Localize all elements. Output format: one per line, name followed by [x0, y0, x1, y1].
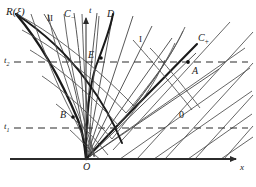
label-C-plus-sub: + — [205, 38, 209, 46]
point-E-marker — [99, 56, 103, 60]
label-D: D — [107, 9, 114, 19]
label-t1: t1 — [4, 122, 9, 134]
label-C-plus-letter: C — [198, 32, 205, 43]
label-origin-O: O — [83, 162, 90, 172]
label-point-E: E — [88, 50, 94, 60]
label-region-0: 0 — [179, 110, 184, 120]
label-C-minus-sub: − — [71, 14, 75, 22]
label-region-II: II — [47, 14, 53, 23]
figure-caption — [0, 179, 256, 187]
label-x-axis: x — [240, 163, 244, 172]
characteristics-diagram: R(ξ) C− C+ D II I 0 A B E O x t t2 t1 — [0, 0, 256, 187]
label-C-plus: C+ — [198, 33, 209, 46]
label-t2-sub: 2 — [7, 61, 10, 67]
label-t2: t2 — [4, 56, 9, 68]
point-B-marker — [71, 115, 75, 119]
diagram-canvas — [0, 0, 256, 187]
label-t1-sub: 1 — [7, 127, 10, 133]
label-region-I: I — [139, 35, 142, 44]
label-point-A: A — [192, 66, 198, 76]
point-A-marker — [186, 60, 190, 64]
label-C-minus-letter: C — [64, 8, 71, 19]
region-I-characteristics — [112, 27, 200, 139]
label-t-axis: t — [89, 6, 92, 15]
label-C-minus: C− — [64, 9, 75, 22]
cplus-family-interaction — [31, 14, 99, 157]
label-point-B: B — [60, 110, 66, 120]
label-R-xi: R(ξ) — [6, 6, 25, 17]
